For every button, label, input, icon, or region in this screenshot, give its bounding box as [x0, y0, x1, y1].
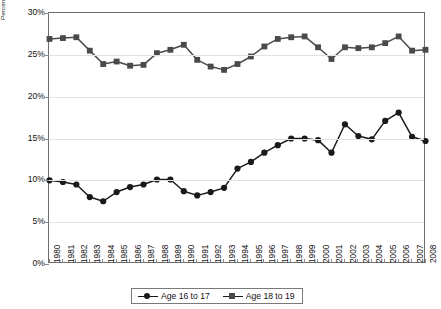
x-axis-tick — [49, 259, 50, 263]
gridline — [49, 55, 424, 56]
x-axis-tick-label: 1980 — [52, 245, 62, 263]
data-point — [396, 34, 402, 40]
data-point — [235, 61, 241, 67]
plot-area — [48, 12, 425, 263]
data-point — [275, 36, 281, 42]
y-axis-tick-labels: 0%5%10%15%20%25%30% — [14, 0, 48, 270]
x-axis-tick-label: 1989 — [173, 245, 183, 263]
x-axis-tick-label: 1992 — [213, 245, 223, 263]
data-point — [127, 63, 133, 69]
data-point — [140, 181, 146, 187]
legend-label: Age 16 to 17 — [161, 291, 210, 301]
legend-item-age-16-to-17[interactable]: Age 16 to 17 — [138, 291, 210, 301]
x-axis-tick — [223, 259, 224, 263]
x-axis-tick-label: 2001 — [334, 245, 344, 263]
x-axis-tick — [277, 259, 278, 263]
x-axis-tick — [331, 259, 332, 263]
data-point — [73, 181, 79, 187]
data-point — [181, 188, 187, 194]
x-axis-tick-label: 1999 — [307, 245, 317, 263]
data-point — [329, 56, 335, 62]
legend: Age 16 to 17 Age 18 to 19 — [131, 288, 303, 304]
x-axis-tick-label: 1998 — [294, 245, 304, 263]
data-point — [409, 48, 415, 54]
gridline — [49, 180, 424, 181]
x-axis-tick — [62, 259, 63, 263]
x-axis-tick-label: 2004 — [374, 245, 384, 263]
data-point — [369, 44, 375, 50]
data-point — [396, 109, 402, 115]
data-point — [248, 159, 254, 165]
data-point — [87, 194, 93, 200]
data-point — [382, 118, 388, 124]
data-point — [302, 34, 308, 40]
data-point — [328, 150, 334, 156]
data-point — [73, 34, 79, 40]
data-point — [100, 61, 106, 67]
x-axis-tick — [371, 259, 372, 263]
data-point — [355, 45, 361, 51]
x-axis-tick — [143, 259, 144, 263]
data-point — [60, 35, 66, 41]
data-point — [100, 198, 106, 204]
data-point — [47, 36, 53, 42]
x-axis-tick-label: 2003 — [361, 245, 371, 263]
data-point — [288, 34, 294, 40]
data-point — [221, 185, 227, 191]
x-axis-tick — [357, 259, 358, 263]
x-axis-tick — [89, 259, 90, 263]
y-axis-tick-label: 15% — [28, 133, 45, 143]
x-axis-tick-label: 2008 — [428, 245, 438, 263]
x-axis-tick — [237, 259, 238, 263]
x-axis-tick — [290, 259, 291, 263]
series-2 — [47, 34, 429, 73]
x-axis-tick-label: 1995 — [254, 245, 264, 263]
y-axis-tick — [45, 139, 49, 140]
y-axis-tick-label: 10% — [28, 174, 45, 184]
x-axis-tick — [411, 259, 412, 263]
x-axis-tick — [425, 259, 426, 263]
x-axis-tick-label: 1981 — [66, 245, 76, 263]
y-axis-title: Percent of GED Test Takers — [0, 0, 10, 70]
x-axis-tick-label: 1996 — [267, 245, 277, 263]
x-axis-tick-label: 2000 — [321, 245, 331, 263]
data-point — [275, 142, 281, 148]
data-point — [87, 48, 93, 54]
y-axis-tick-label: 20% — [28, 91, 45, 101]
data-point — [342, 44, 348, 50]
x-axis-tick-label: 1993 — [227, 245, 237, 263]
x-axis-tick-label: 1983 — [92, 245, 102, 263]
data-point — [221, 67, 227, 73]
x-axis-tick-label: 2002 — [348, 245, 358, 263]
gridline — [49, 139, 424, 140]
y-axis-tick — [45, 97, 49, 98]
x-axis-tick — [75, 259, 76, 263]
x-axis-tick — [304, 259, 305, 263]
x-axis-tick — [102, 259, 103, 263]
x-axis-tick-label: 2005 — [388, 245, 398, 263]
data-point — [315, 44, 321, 50]
x-axis-tick-label: 1997 — [280, 245, 290, 263]
data-point — [208, 189, 214, 195]
x-axis-tick — [384, 259, 385, 263]
y-axis-tick — [45, 180, 49, 181]
legend-item-age-18-to-19[interactable]: Age 18 to 19 — [223, 291, 295, 301]
legend-label: Age 18 to 19 — [246, 291, 295, 301]
x-axis-tick — [250, 259, 251, 263]
data-point — [261, 150, 267, 156]
x-axis-tick-label: 1988 — [160, 245, 170, 263]
x-axis-tick — [129, 259, 130, 263]
data-point — [261, 44, 267, 50]
data-point — [114, 59, 120, 65]
x-axis-tick-label: 1994 — [240, 245, 250, 263]
gridline — [49, 97, 424, 98]
data-point — [234, 166, 240, 172]
x-axis-tick — [183, 259, 184, 263]
data-point — [141, 62, 147, 68]
y-axis-tick-label: 5% — [33, 216, 45, 226]
x-axis-tick — [169, 259, 170, 263]
data-point — [114, 189, 120, 195]
x-axis-tick-label: 1991 — [200, 245, 210, 263]
x-axis-tick — [116, 259, 117, 263]
data-point — [181, 42, 187, 48]
